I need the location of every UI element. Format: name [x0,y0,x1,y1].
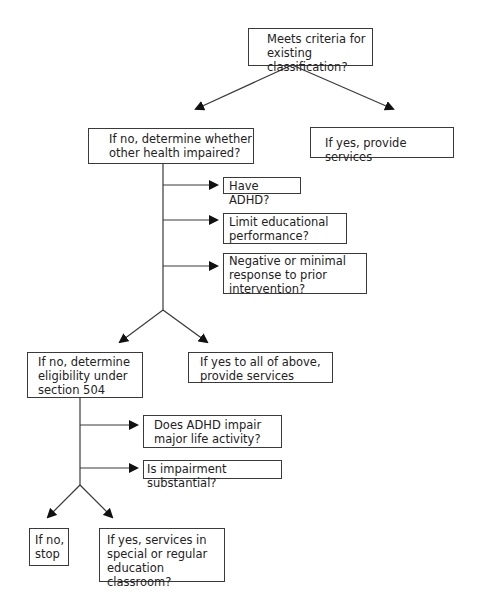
start-question-box: Meets criteria for existing classificati… [248,28,373,66]
have-adhd-text: Have ADHD? [229,179,300,207]
section-504-text: If no, determine eligibility under secti… [38,355,142,397]
negative-response-text: Negative or minimal response to prior in… [229,254,366,296]
limit-educational-box: Limit educational performance? [223,213,347,244]
no-stop-box: If no, stop [29,528,69,566]
have-adhd-box: Have ADHD? [223,177,301,194]
connector-lines [0,0,478,604]
yes-classroom-text: If yes, services in special or regular e… [107,533,224,589]
yes-all-above-text: If yes to all of above, provide services [200,355,332,383]
impair-life-activity-text: Does ADHD impair major life activity? [154,418,281,446]
yes-classroom-box: If yes, services in special or regular e… [99,528,225,582]
section-504-box: If no, determine eligibility under secti… [27,352,143,398]
ohi-check-text: If no, determine whether other health im… [109,132,253,160]
negative-response-box: Negative or minimal response to prior in… [223,253,367,294]
yes-provide-services-box: If yes, provide services [310,127,454,158]
start-question-text: Meets criteria for existing classificati… [267,32,372,74]
impairment-substantial-text: Is impairment substantial? [147,462,281,490]
yes-provide-services-text: If yes, provide services [325,136,453,164]
impairment-substantial-box: Is impairment substantial? [143,460,282,479]
no-stop-text: If no, stop [35,533,68,561]
ohi-check-box: If no, determine whether other health im… [88,128,254,164]
impair-life-activity-box: Does ADHD impair major life activity? [143,415,282,448]
limit-educational-text: Limit educational performance? [229,215,346,243]
yes-all-above-box: If yes to all of above, provide services [188,352,333,383]
